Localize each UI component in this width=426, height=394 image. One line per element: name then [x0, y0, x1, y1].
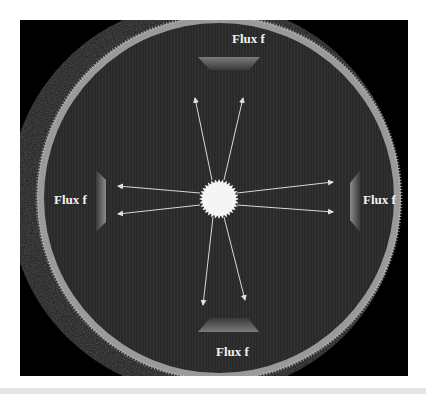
left-flux-label: Flux f: [54, 192, 87, 208]
left-detector: [96, 170, 106, 232]
bottom-flux-label: Flux f: [216, 344, 249, 360]
right-flux-label: Flux f: [363, 192, 396, 208]
bottom-strip: [0, 388, 426, 394]
diagram-frame: Flux f Flux f Flux f Flux f: [20, 20, 408, 376]
top-flux-label: Flux f: [232, 31, 265, 47]
central-star: [199, 179, 239, 219]
